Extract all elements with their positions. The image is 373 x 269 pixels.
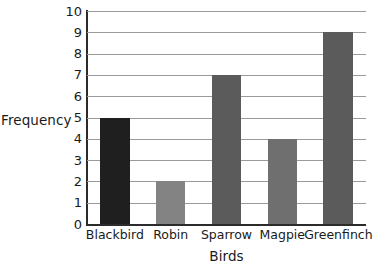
bar [156,181,185,224]
y-tick-label: 7 [60,68,82,81]
x-axis-line [86,224,366,226]
y-tick-label: 2 [60,175,82,188]
gridline [87,11,366,12]
y-tick-label: 10 [60,5,82,18]
bar [100,118,129,225]
y-tick-label: 4 [60,132,82,145]
y-tick-label: 9 [60,26,82,39]
bar [212,75,241,224]
bar [268,139,297,224]
x-tick-label: Greenfinch [304,228,372,242]
y-tick-label: 8 [60,47,82,60]
y-tick-label: 1 [60,196,82,209]
x-axis-title: Birds [87,248,366,264]
y-tick-label: 5 [60,111,82,124]
bar [323,32,352,224]
y-tick-label: 6 [60,90,82,103]
plot-area [87,11,366,224]
y-tick-label: 3 [60,154,82,167]
y-tick-label: 0 [60,218,82,231]
